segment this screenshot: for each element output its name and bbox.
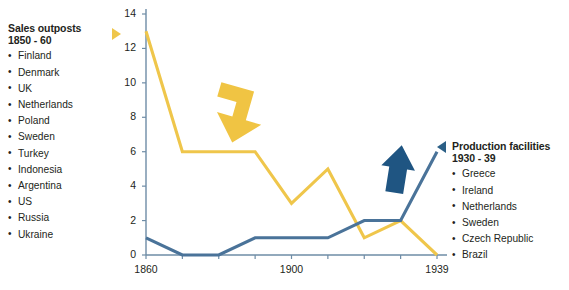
x-tick-label: 1900 bbox=[272, 263, 312, 275]
y-tick-label: 8 bbox=[114, 110, 136, 122]
y-tick-label: 2 bbox=[114, 214, 136, 226]
y-tick-label: 14 bbox=[114, 7, 136, 19]
arrow-up-icon bbox=[377, 143, 418, 196]
y-tick-label: 4 bbox=[114, 179, 136, 191]
y-tick-label: 0 bbox=[114, 248, 136, 260]
chart-canvas bbox=[0, 0, 569, 290]
line-chart: 0 2 4 6 8 10 12 14 1860 1900 1939 bbox=[0, 0, 569, 290]
x-tick-label: 1939 bbox=[417, 263, 457, 275]
y-tick-label: 12 bbox=[114, 41, 136, 53]
y-tick-label: 6 bbox=[114, 145, 136, 157]
y-tick-label: 10 bbox=[114, 76, 136, 88]
x-tick-label: 1860 bbox=[126, 263, 166, 275]
arrow-down-right-icon bbox=[206, 82, 269, 149]
